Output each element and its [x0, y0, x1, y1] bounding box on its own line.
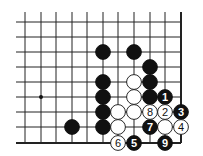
black-stone — [143, 90, 158, 105]
move-number: 9 — [162, 137, 168, 149]
black-stone — [96, 75, 111, 90]
white-stone-6: 6 — [111, 136, 126, 151]
black-stone — [96, 105, 111, 120]
move-number: 4 — [178, 121, 184, 133]
star-point — [39, 95, 43, 99]
white-stone — [158, 120, 173, 135]
move-number: 1 — [162, 91, 168, 103]
move-number: 8 — [147, 106, 153, 118]
black-stone — [96, 90, 111, 105]
stone-circle — [65, 120, 80, 135]
stone-circle — [96, 75, 111, 90]
white-stone — [111, 105, 126, 120]
black-stone — [96, 120, 111, 135]
move-number: 5 — [131, 137, 137, 149]
black-stone — [96, 45, 111, 60]
black-stone — [143, 75, 158, 90]
stone-circle — [96, 45, 111, 60]
black-stone — [65, 120, 80, 135]
stone-circle — [127, 45, 142, 60]
white-stone — [127, 105, 142, 120]
black-stone-1: 1 — [158, 90, 173, 105]
stone-circle — [127, 75, 142, 90]
stone-circle — [143, 75, 158, 90]
star-points — [39, 95, 43, 99]
black-stone-7: 7 — [143, 120, 158, 135]
black-stone-5: 5 — [127, 136, 142, 151]
stone-circle — [127, 105, 142, 120]
stone-circle — [96, 120, 111, 135]
white-stone — [127, 75, 142, 90]
black-stone-3: 3 — [174, 105, 189, 120]
move-number: 7 — [147, 121, 153, 133]
stone-circle — [158, 120, 173, 135]
white-stone-4: 4 — [174, 120, 189, 135]
stone-circle — [96, 105, 111, 120]
white-stone — [127, 90, 142, 105]
black-stone — [127, 45, 142, 60]
stone-circle — [111, 120, 126, 135]
go-board: 123456789 — [0, 0, 203, 156]
black-stone-9: 9 — [158, 136, 173, 151]
stone-circle — [143, 90, 158, 105]
stone-circle — [96, 90, 111, 105]
move-number: 3 — [178, 106, 184, 118]
stone-circle — [111, 105, 126, 120]
white-stone-2: 2 — [158, 105, 173, 120]
white-stone — [111, 120, 126, 135]
stone-circle — [143, 60, 158, 75]
black-stone — [143, 60, 158, 75]
white-stone-8: 8 — [143, 105, 158, 120]
move-number: 2 — [162, 106, 168, 118]
stone-circle — [127, 90, 142, 105]
move-number: 6 — [115, 137, 121, 149]
